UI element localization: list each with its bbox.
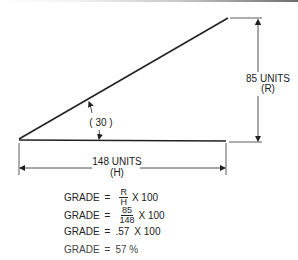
angle-arc-upper — [89, 102, 92, 113]
angle-label: ( 30 ) — [82, 117, 120, 128]
result-value: 57 % — [115, 244, 138, 256]
denominator: 148 — [119, 216, 134, 225]
angle-arc-lower — [99, 130, 100, 139]
formula-line-2: GRADE=85148X 100 — [64, 206, 165, 225]
formula-lhs: GRADE — [64, 210, 100, 222]
equals-sign: = — [105, 210, 111, 222]
rise-symbol: (R) — [238, 83, 298, 94]
formula-line-4: GRADE=57 % — [64, 244, 138, 256]
run-symbol: (H) — [87, 167, 147, 178]
formula-lhs: GRADE — [64, 244, 100, 256]
equals-sign: = — [105, 226, 111, 238]
formula-lhs: GRADE — [64, 226, 100, 238]
multiplier: X 100 — [134, 226, 160, 238]
formula-lhs: GRADE — [64, 192, 100, 204]
base-line — [19, 140, 226, 141]
formula-line-1: GRADE=RHX 100 — [64, 188, 158, 207]
slope-line — [19, 18, 228, 139]
equals-sign: = — [105, 244, 111, 256]
decimal-value: .57 — [115, 226, 129, 238]
formula-line-3: GRADE=.57X 100 — [64, 226, 160, 238]
multiplier: X 100 — [138, 210, 164, 222]
run-label: 148 UNITS — [87, 156, 147, 167]
fraction: 85148 — [119, 206, 134, 225]
equals-sign: = — [105, 192, 111, 204]
multiplier: X 100 — [132, 192, 158, 204]
